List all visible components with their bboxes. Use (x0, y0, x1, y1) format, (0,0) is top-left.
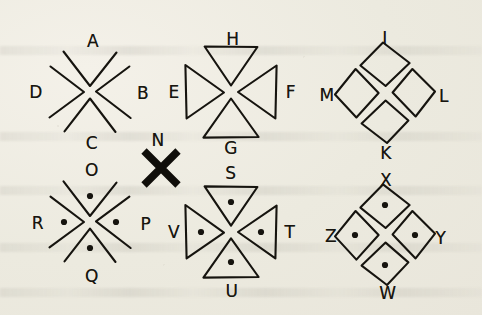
cluster-6-bottom-dot (382, 262, 388, 268)
cluster-5-right-solid-outline-triangle (238, 206, 277, 259)
symbol-label-q: Q (85, 268, 99, 285)
cluster-4-bottom-dot (87, 245, 93, 251)
cluster-2-left-solid-outline-triangle (185, 65, 224, 119)
symbol-label-o: O (85, 162, 99, 179)
cluster-4-right-dot (113, 219, 119, 225)
symbol-label-x: X (380, 172, 392, 189)
symbol-label-b: B (137, 85, 149, 102)
cluster-3-bottom-kite-quadrilateral (362, 101, 409, 144)
cluster-4 (50, 181, 131, 262)
symbol-label-c: C (86, 135, 98, 152)
cluster-5-bottom-dot (228, 259, 234, 265)
cluster-1-left-open-chevron-wedge (50, 67, 85, 118)
symbol-label-m: M (319, 87, 334, 104)
symbol-label-r: R (32, 215, 44, 232)
cluster-3 (335, 43, 435, 144)
cluster-6-left-dot (352, 232, 358, 238)
symbol-label-f: F (286, 84, 296, 101)
symbol-label-p: P (141, 216, 152, 233)
bold-x-mark-icon (144, 151, 178, 185)
symbol-label-n: N (151, 132, 164, 149)
symbol-label-v: V (168, 224, 180, 241)
symbol-figure (0, 0, 482, 315)
cluster-6-top-dot (382, 202, 388, 208)
symbol-label-d: D (29, 84, 43, 101)
cluster-3-right-kite-quadrilateral (393, 69, 435, 117)
symbol-label-z: Z (325, 228, 337, 245)
cluster-2-right-solid-outline-triangle (238, 66, 277, 119)
symbol-label-u: U (226, 283, 239, 300)
symbol-label-e: E (168, 84, 179, 101)
figure-canvas: ADBCHEFGIMLKNORPQSVTUXZYW (0, 0, 482, 315)
cluster-5-left-solid-outline-triangle (185, 205, 224, 258)
cluster-5-top-solid-outline-triangle (205, 186, 258, 225)
cluster-1-right-open-chevron-wedge (96, 67, 131, 119)
cluster-5-bottom-solid-outline-triangle (203, 238, 258, 277)
symbol-label-k: K (380, 145, 392, 162)
cluster-5-left-dot (198, 229, 204, 235)
cluster-5 (185, 186, 276, 277)
symbol-label-i: I (382, 30, 388, 47)
symbol-label-g: G (224, 140, 238, 157)
symbol-label-w: W (379, 285, 396, 302)
cluster-4-top-dot (87, 193, 93, 199)
cluster-2 (185, 47, 276, 138)
cluster-2-bottom-solid-outline-triangle (203, 99, 258, 138)
symbol-label-h: H (226, 31, 239, 48)
symbol-label-y: Y (436, 230, 447, 247)
symbol-label-s: S (225, 165, 236, 182)
cluster-6 (335, 184, 435, 285)
symbol-label-l: L (439, 88, 449, 105)
symbol-label-a: A (87, 33, 99, 50)
cluster-1-bottom-open-chevron-wedge (65, 99, 116, 133)
cluster-1 (50, 52, 131, 133)
cluster-6-right-dot (412, 232, 418, 238)
cluster-4-left-dot (61, 219, 67, 225)
cluster-2-top-solid-outline-triangle (205, 47, 258, 86)
cluster-5-right-dot (258, 229, 264, 235)
symbol-label-t: T (285, 224, 296, 241)
cluster-5-top-dot (228, 199, 234, 205)
